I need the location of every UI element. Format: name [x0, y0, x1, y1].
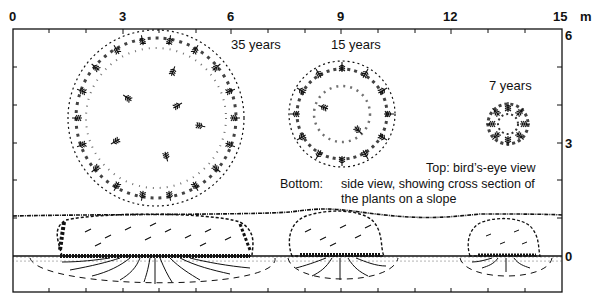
top-axis-label-3: 3: [119, 10, 126, 23]
right-axis-label-3: 3: [565, 137, 572, 150]
diagram-canvas: [0, 0, 602, 304]
top-axis-label-15: 15: [553, 10, 567, 23]
caption-bottom-line1: side view, showing cross section of: [341, 177, 535, 192]
right-axis-label-6: 6: [565, 29, 572, 42]
plant-label-35-years: 35 years: [231, 38, 281, 51]
top-axis-ticks: [49, 29, 525, 34]
crown-7-years-top-view: [486, 102, 530, 146]
top-axis-label-0: 0: [9, 10, 16, 23]
top-axis-label-12: 12: [443, 10, 457, 23]
caption-bottom-line2: the plants on a slope: [341, 192, 456, 207]
crown-35-years-top-view: [68, 30, 244, 206]
plant-label-15-years: 15 years: [331, 38, 381, 51]
plant-15-years-side-view: [288, 211, 398, 280]
caption-bottom-prefix: Bottom:: [280, 177, 323, 192]
caption-top: Top: bird’s-eye view: [426, 161, 536, 176]
leaf-marks: [85, 223, 231, 246]
plant-label-7-years: 7 years: [489, 79, 532, 92]
right-axis-label-0: 0: [565, 250, 572, 263]
top-axis-label-9: 9: [337, 10, 344, 23]
slope-surface-line: [13, 209, 562, 218]
right-axis-ticks: [557, 67, 562, 218]
top-axis-label-6: 6: [227, 10, 234, 23]
plant-35-years-side-view: [30, 214, 275, 284]
top-axis-unit: m: [580, 10, 592, 23]
crown-15-years-top-view: [289, 61, 395, 167]
plant-7-years-side-view: [460, 219, 552, 276]
